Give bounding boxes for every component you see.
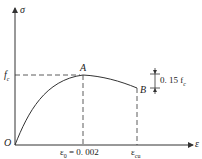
epscu-label: εcu xyxy=(131,148,140,159)
drop-label: 0. 15 fc xyxy=(160,76,186,87)
eps0-label: ε0 = 0. 002 xyxy=(60,148,99,159)
point-b-label: B xyxy=(140,85,146,95)
y-axis-label: σ xyxy=(20,5,25,15)
stress-curve-ascending xyxy=(15,75,83,145)
fc-label: fc xyxy=(4,70,9,82)
point-a-label: A xyxy=(80,63,86,73)
origin-label: O xyxy=(4,138,11,148)
x-axis-label: ε xyxy=(195,139,199,149)
stress-curve-descending xyxy=(83,75,137,88)
